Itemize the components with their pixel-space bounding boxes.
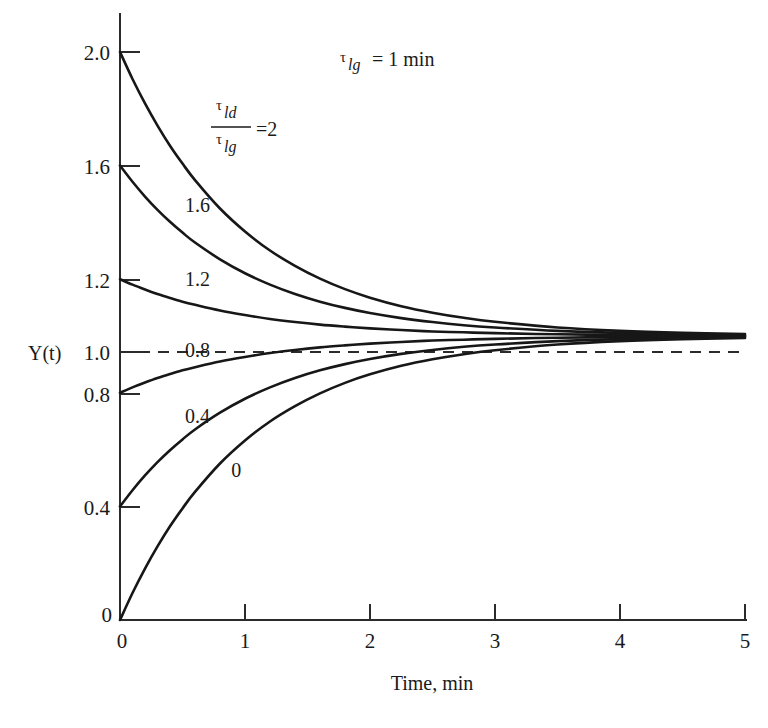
tau-symbol-denominator: τ <box>216 131 222 147</box>
tau-subscript-lg: lg <box>348 56 360 74</box>
curve-ratio-0.8 <box>120 336 745 393</box>
y-tick-label-1.0: 1.0 <box>84 341 110 365</box>
y-tick-label-0: 0 <box>102 603 113 627</box>
curve-label-group: 1.61.20.80.40 <box>185 194 241 480</box>
curve-label-1.6: 1.6 <box>185 194 210 216</box>
y-tick-label-1.6: 1.6 <box>84 155 110 179</box>
x-tick-label-1: 1 <box>240 629 251 653</box>
curve-ratio-2 <box>120 52 745 334</box>
curve-group <box>120 52 745 620</box>
y-tick-label-1.2: 1.2 <box>84 269 110 293</box>
annotation-tau-ratio: τ ld τ lg =2 <box>211 97 277 156</box>
curve-label-1.2: 1.2 <box>185 268 210 290</box>
x-tick-label-4: 4 <box>615 629 626 653</box>
x-tick-label-0: 0 <box>117 629 128 653</box>
x-tick-label-3: 3 <box>490 629 501 653</box>
curve-label-0: 0 <box>231 459 241 481</box>
x-axis-title: Time, min <box>391 672 474 694</box>
tau-lg-equals-text: = 1 min <box>372 48 434 70</box>
tau-symbol-numerator: τ <box>216 97 222 113</box>
tau-ratio-equals-text: =2 <box>256 118 277 140</box>
y-tick-label-2.0: 2.0 <box>84 41 110 65</box>
curve-ratio-0 <box>120 338 745 620</box>
curve-label-0.8: 0.8 <box>185 339 210 361</box>
y-tick-label-0.8: 0.8 <box>84 383 110 407</box>
tau-subscript-denominator: lg <box>224 138 236 156</box>
lead-lag-step-response-chart: 2.0 1.6 1.2 1.0 0.8 0.4 0 Y(t) 0 1 2 3 4… <box>0 0 768 728</box>
chart-figure: 2.0 1.6 1.2 1.0 0.8 0.4 0 Y(t) 0 1 2 3 4… <box>0 0 768 728</box>
annotation-tau-lg: τ lg = 1 min <box>340 48 434 74</box>
x-tick-label-2: 2 <box>365 629 376 653</box>
y-axis-title: Y(t) <box>28 342 61 365</box>
tau-symbol-lg: τ <box>340 49 346 65</box>
x-axis-ticks <box>245 604 745 620</box>
curve-label-0.4: 0.4 <box>185 405 210 427</box>
y-tick-label-0.4: 0.4 <box>84 496 111 520</box>
x-tick-label-5: 5 <box>740 629 751 653</box>
tau-subscript-numerator: ld <box>224 104 237 121</box>
curve-ratio-1.2 <box>120 279 745 336</box>
